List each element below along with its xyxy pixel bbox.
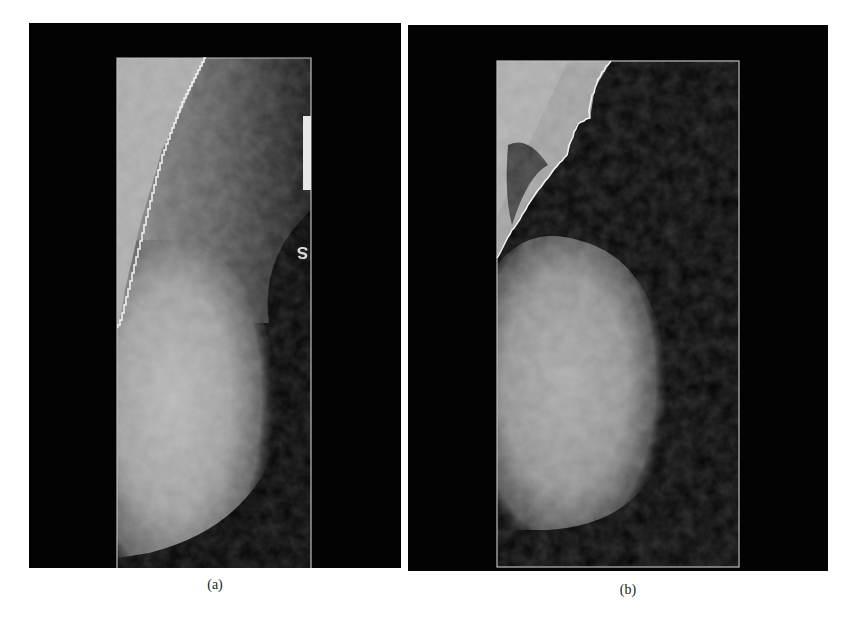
orientation-label-s: S [297,243,308,261]
mammogram-panel-a: S [29,23,401,568]
mammogram-image-a [29,23,401,568]
film-marker-bar [303,116,311,190]
mammogram-panel-b [408,25,828,571]
caption-b: (b) [608,582,648,598]
caption-a: (a) [195,577,235,593]
mammogram-image-b [408,25,828,571]
